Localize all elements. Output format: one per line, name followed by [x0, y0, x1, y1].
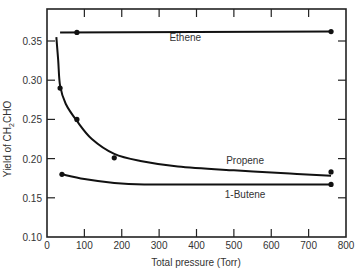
y-axis-label-main: Yield of CH — [2, 127, 13, 177]
propene-point — [112, 155, 117, 160]
x-tick-label: 700 — [300, 240, 317, 251]
x-tick-label: 500 — [226, 240, 243, 251]
y-axis-label-tail: CHO — [2, 101, 13, 123]
y-tick-label: 0.35 — [23, 36, 43, 47]
ethene-point — [74, 30, 79, 35]
x-tick-label: 300 — [151, 240, 168, 251]
propene-curve — [56, 37, 331, 176]
1-butene-curve — [62, 174, 331, 184]
propene-label: Propene — [226, 155, 264, 166]
plot-axes — [47, 9, 346, 237]
y-tick-label: 0.30 — [23, 75, 43, 86]
axis-ticks: 01002003004005006007008000.100.150.200.2… — [23, 9, 355, 251]
plot-frame — [47, 9, 346, 237]
x-tick-label: 0 — [44, 240, 50, 251]
ethene-point — [328, 29, 333, 34]
y-tick-label: 0.25 — [23, 114, 43, 125]
series-labels: EthenePropene1-Butene — [169, 32, 265, 200]
x-tick-label: 100 — [76, 240, 93, 251]
y-axis-label: Yield of CH2CHO — [2, 101, 15, 178]
chart: 01002003004005006007008000.100.150.200.2… — [0, 0, 364, 274]
1-butene-point — [59, 172, 64, 177]
1-butene-label: 1-Butene — [225, 189, 266, 200]
1-butene-point — [328, 182, 333, 187]
x-tick-label: 600 — [263, 240, 280, 251]
propene-point — [328, 169, 333, 174]
x-tick-label: 800 — [338, 240, 355, 251]
propene-point — [57, 85, 62, 90]
y-tick-label: 0.10 — [23, 232, 43, 243]
propene-point — [74, 117, 79, 122]
y-tick-label: 0.20 — [23, 154, 43, 165]
x-axis-label: Total pressure (Torr) — [151, 257, 240, 268]
data-series — [56, 29, 333, 187]
x-tick-label: 400 — [188, 240, 205, 251]
ethene-label: Ethene — [169, 32, 201, 43]
y-tick-label: 0.15 — [23, 193, 43, 204]
x-tick-label: 200 — [113, 240, 130, 251]
